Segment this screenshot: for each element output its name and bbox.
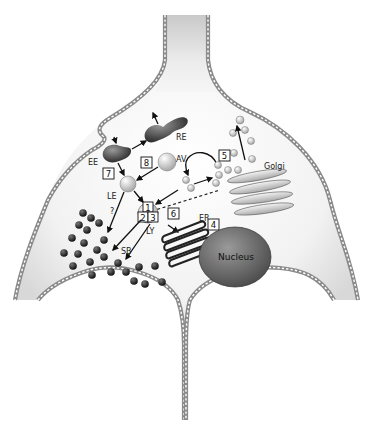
label-re: RE	[176, 133, 187, 142]
exocytic-vesicle	[236, 116, 244, 124]
box-3-label: 3	[150, 213, 155, 223]
label-le: LE	[107, 192, 117, 201]
box-5-label: 5	[222, 151, 227, 161]
label-ee: EE	[88, 158, 98, 167]
label-sb: SB	[121, 247, 132, 256]
label-question: ?	[110, 207, 114, 216]
box-8-label: 8	[144, 158, 149, 168]
box-7-label: 7	[106, 169, 111, 179]
label-nucleus: Nucleus	[218, 252, 254, 262]
late-endosome	[120, 176, 136, 192]
label-golgi: Golgi	[264, 162, 285, 171]
box-2-label: 2	[140, 213, 145, 223]
cell-diagram: RE EE 7 LE 8 AV 5	[0, 0, 372, 431]
autophagic-vacuole	[158, 153, 176, 171]
box-1-label: 1	[145, 203, 150, 213]
box-4-label: 4	[211, 220, 216, 230]
box-6-label: 6	[171, 209, 176, 219]
